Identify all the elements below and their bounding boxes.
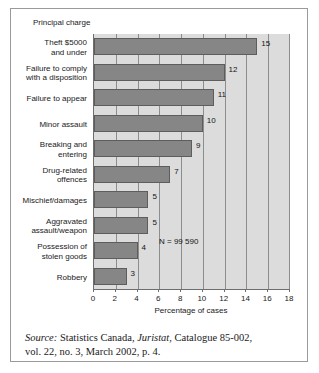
sample-size-annotation: N = 99 590 [159, 237, 198, 246]
category-label-minor-assault: Minor assault [0, 120, 87, 130]
source-note: Source: Statistics Canada, Juristat, Cat… [25, 331, 297, 359]
category-label-line: Theft $5000 [0, 38, 87, 48]
x-tick [245, 289, 246, 292]
bar-value-breaking-entering: 9 [196, 141, 200, 150]
category-label-line: assault/weapon [0, 226, 87, 236]
bar-value-drug-related: 7 [174, 167, 178, 176]
plot-area: 15 12 11 10 9 7 [93, 34, 289, 289]
bar-value-theft: 15 [261, 39, 270, 48]
category-label-line: Mischief/damages [0, 196, 87, 206]
x-tick-label: 12 [219, 294, 228, 303]
x-axis-title: Percentage of cases [93, 306, 289, 315]
bar-value-possession-stolen: 4 [142, 243, 146, 252]
x-tick-label: 16 [263, 294, 272, 303]
category-label-possession-stolen: Possession of stolen goods [0, 242, 87, 261]
category-label-breaking-entering: Breaking and entering [0, 140, 87, 159]
category-label-aggravated-assault: Aggravated assault/weapon [0, 217, 87, 236]
bar-row: 12 [94, 60, 289, 86]
bar-chart: Principal charge 15 12 11 [11, 9, 309, 319]
bar-value-failure-appear: 11 [218, 90, 226, 99]
x-tick-label: 8 [178, 294, 182, 303]
x-tick [202, 289, 203, 292]
x-tick [180, 289, 181, 292]
category-label-line: Failure to appear [0, 94, 87, 104]
bar-row: 15 [94, 34, 289, 60]
x-tick-label: 6 [156, 294, 160, 303]
bar-value-minor-assault: 10 [207, 116, 216, 125]
category-label-line: entering [0, 150, 87, 160]
x-tick [93, 289, 94, 292]
bar-row: 11 [94, 85, 289, 111]
bar-drug-related[interactable] [94, 166, 170, 183]
bar-mischief[interactable] [94, 191, 148, 208]
x-tick-label: 14 [241, 294, 250, 303]
bar-row: 5 [94, 213, 289, 239]
bar-aggravated-assault[interactable] [94, 217, 148, 234]
category-label-robbery: Robbery [0, 273, 87, 283]
bar-robbery[interactable] [94, 268, 127, 285]
bar-row: 9 [94, 136, 289, 162]
x-axis-line [93, 289, 289, 290]
category-label-theft: Theft $5000 and under [0, 38, 87, 57]
x-tick [115, 289, 116, 292]
category-label-line: Aggravated [0, 217, 87, 227]
category-label-failure-comply: Failure to comply with a disposition [0, 64, 87, 83]
y-axis-title: Principal charge [33, 18, 90, 27]
x-tick-label: 4 [134, 294, 138, 303]
figure-frame: Principal charge 15 12 11 [10, 8, 308, 362]
bar-breaking-entering[interactable] [94, 140, 192, 157]
x-tick-label: 10 [197, 294, 206, 303]
category-label-failure-appear: Failure to appear [0, 94, 87, 104]
bar-value-robbery: 3 [131, 269, 135, 278]
bar-row: 3 [94, 264, 289, 290]
source-line-2: vol. 22, no. 3, March 2002, p. 4. [25, 346, 160, 357]
bar-row: 7 [94, 162, 289, 188]
category-label-line: Minor assault [0, 120, 87, 130]
x-tick [137, 289, 138, 292]
gridline-18 [289, 34, 290, 289]
x-tick [289, 289, 290, 292]
x-tick [158, 289, 159, 292]
category-label-line: and under [0, 48, 87, 58]
bar-theft[interactable] [94, 38, 257, 55]
category-label-drug-related: Drug-related offences [0, 166, 87, 185]
source-text-a: Statistics Canada, [57, 332, 137, 343]
category-label-line: Robbery [0, 273, 87, 283]
category-label-line: Possession of [0, 242, 87, 252]
category-label-line: Failure to comply [0, 64, 87, 74]
x-tick-label: 0 [91, 294, 95, 303]
x-tick-label: 2 [113, 294, 117, 303]
bar-value-failure-comply: 12 [229, 65, 238, 74]
source-publication: Juristat [137, 332, 169, 343]
x-tick [267, 289, 268, 292]
bar-possession-stolen[interactable] [94, 242, 138, 259]
source-label: Source: [25, 332, 57, 343]
bar-failure-appear[interactable] [94, 89, 214, 106]
category-label-line: with a disposition [0, 73, 87, 83]
bar-value-aggravated-assault: 5 [152, 218, 156, 227]
source-text-b: , Catalogue 85-002, [169, 332, 252, 343]
category-label-line: Breaking and [0, 140, 87, 150]
category-label-line: stolen goods [0, 252, 87, 262]
category-label-line: offences [0, 175, 87, 185]
bar-row: 5 [94, 187, 289, 213]
category-label-mischief: Mischief/damages [0, 196, 87, 206]
bar-row: 10 [94, 111, 289, 137]
bar-minor-assault[interactable] [94, 115, 203, 132]
x-tick [224, 289, 225, 292]
category-label-line: Drug-related [0, 166, 87, 176]
bar-value-mischief: 5 [152, 192, 156, 201]
bar-failure-comply[interactable] [94, 64, 225, 81]
x-tick-label: 18 [285, 294, 294, 303]
